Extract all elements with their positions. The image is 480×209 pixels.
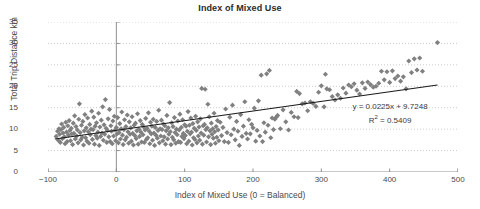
data-point [231, 127, 236, 132]
data-point [265, 123, 270, 128]
data-point [76, 117, 81, 122]
data-point [382, 77, 387, 82]
data-point [261, 120, 266, 125]
data-point [156, 108, 161, 113]
data-point [263, 130, 268, 135]
data-point [209, 121, 214, 126]
data-point [260, 139, 265, 144]
data-point [387, 80, 392, 85]
data-point [296, 115, 301, 120]
data-point [406, 58, 411, 63]
data-point [219, 133, 224, 138]
data-point [81, 142, 86, 147]
data-point [234, 119, 239, 124]
chart-title: Index of Mixed Use [0, 3, 480, 13]
data-point [77, 101, 82, 106]
data-point [186, 109, 191, 114]
data-point [122, 117, 127, 122]
data-point [235, 129, 240, 134]
data-point [97, 124, 102, 129]
data-point [200, 142, 205, 147]
data-point [106, 116, 111, 121]
data-point [96, 111, 101, 116]
data-point [289, 110, 294, 115]
y-tick-label: 35 [0, 18, 18, 26]
data-point [97, 143, 102, 148]
data-point [167, 100, 172, 105]
data-point [229, 132, 234, 137]
data-point [72, 113, 77, 118]
data-point [129, 114, 134, 119]
data-point [401, 74, 406, 79]
x-tick-label: 400 [368, 176, 412, 184]
data-point [246, 117, 251, 122]
data-point [259, 73, 264, 78]
data-point [164, 113, 169, 118]
data-point [193, 114, 198, 119]
y-tick-label: 0 [0, 168, 18, 176]
data-point [390, 68, 395, 73]
data-point [239, 134, 244, 139]
data-point [92, 142, 97, 147]
data-point [222, 139, 227, 144]
data-point-series [54, 40, 440, 148]
trendline-equation-annotation: y = 0.0225x + 9.7248 R2 = 0.5409 [330, 101, 450, 126]
data-point [90, 137, 95, 142]
data-point [409, 70, 414, 75]
data-point [110, 118, 115, 123]
data-point [230, 103, 235, 108]
data-point [125, 112, 130, 117]
data-point [204, 139, 209, 144]
data-point [245, 136, 250, 141]
scatter-plot-canvas [48, 22, 458, 172]
data-point [319, 83, 324, 88]
data-point [146, 110, 151, 115]
data-point [257, 133, 262, 138]
data-point [412, 56, 417, 61]
data-point [323, 72, 328, 77]
data-point [244, 131, 249, 136]
x-tick-label: 100 [163, 176, 207, 184]
data-point [379, 69, 384, 74]
data-point [286, 127, 291, 132]
data-point [256, 98, 261, 103]
data-point [100, 104, 105, 109]
x-tick-label: −100 [26, 176, 70, 184]
data-point [211, 111, 216, 116]
data-point [177, 112, 182, 117]
data-point [343, 91, 348, 96]
data-point [208, 142, 213, 147]
x-tick-label: 300 [299, 176, 343, 184]
data-point [143, 116, 148, 121]
data-point [248, 131, 253, 136]
data-point [119, 109, 124, 114]
data-point [226, 140, 231, 145]
y-tick-label: 25 [0, 61, 18, 69]
data-point [417, 55, 422, 60]
data-point [237, 143, 242, 148]
data-point [271, 127, 276, 132]
data-point [420, 69, 425, 74]
data-point [233, 137, 238, 142]
data-point [291, 114, 296, 119]
data-point [99, 118, 104, 123]
data-point [360, 80, 365, 85]
data-point [172, 115, 177, 120]
data-point [268, 135, 273, 140]
data-point [321, 104, 326, 109]
y-tick-label: 5 [0, 147, 18, 155]
data-point [283, 119, 288, 124]
data-point [121, 142, 126, 147]
r-squared-suffix: = 0.5409 [378, 116, 412, 125]
data-point [108, 123, 113, 128]
data-point [398, 79, 403, 84]
y-tick-label: 10 [0, 125, 18, 133]
data-point [414, 67, 419, 72]
data-point [220, 125, 225, 130]
data-point [127, 119, 132, 124]
data-point [280, 107, 285, 112]
data-point [278, 126, 283, 131]
data-point [135, 111, 140, 116]
data-point [253, 139, 258, 144]
axis-lines [48, 22, 458, 172]
